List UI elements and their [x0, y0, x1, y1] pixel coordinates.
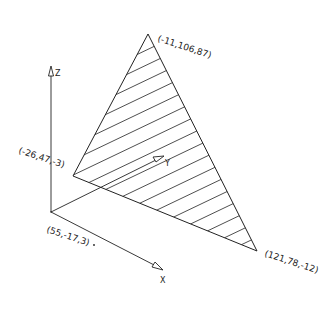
origin-point-icon — [50, 211, 52, 213]
diagram-canvas: Z Y X (-11,106,87) (-26,47,-3) (121,78,-… — [0, 0, 335, 319]
x-axis-label: X — [160, 276, 166, 285]
vertex-label-top: (-11,106,87) — [156, 33, 212, 60]
z-axis-label: Z — [55, 69, 61, 78]
z-arrow-icon — [49, 66, 54, 76]
diagram-svg: Z Y X (-11,106,87) (-26,47,-3) (121,78,-… — [0, 0, 335, 319]
origin-label-dot-icon — [93, 244, 95, 246]
vertex-label-left: (-26,47,-3) — [17, 145, 66, 169]
y-axis-label: Y — [164, 159, 170, 168]
vertex-label-right: (121,78,-12) — [263, 248, 319, 275]
x-arrow-icon — [152, 262, 163, 270]
origin-label: (55,-17,3) — [45, 224, 91, 247]
